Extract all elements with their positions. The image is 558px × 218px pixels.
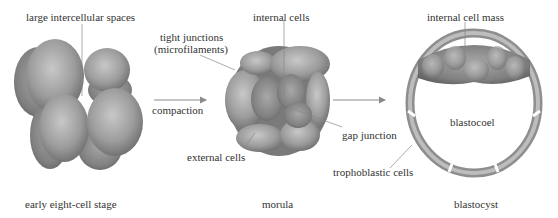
embryo-development-diagram: large intercellular spaces early eight-c… — [0, 0, 558, 218]
callout-large-intercellular-spaces: large intercellular spaces — [26, 11, 135, 23]
callout-internal-cells: internal cells — [253, 11, 310, 23]
caption-early-eight-cell-stage: early eight-cell stage — [25, 198, 117, 210]
blastocyst-embryo — [390, 22, 540, 173]
callout-blastocoel: blastocoel — [450, 116, 495, 128]
callout-external-cells: external cells — [187, 151, 245, 163]
callout-trophoblastic-cells: trophoblastic cells — [333, 166, 413, 178]
callout-tight-junctions: tight junctions — [160, 31, 223, 43]
diagram-graphics — [0, 0, 558, 218]
callout-microfilaments: (microfilaments) — [154, 43, 228, 55]
label-compaction: compaction — [152, 104, 203, 116]
callout-gap-junction: gap junction — [342, 129, 397, 141]
eight-cell-embryo — [14, 24, 143, 170]
caption-blastocyst: blastocyst — [454, 198, 498, 210]
callout-internal-cell-mass: internal cell mass — [427, 11, 504, 23]
caption-morula: morula — [262, 198, 293, 210]
